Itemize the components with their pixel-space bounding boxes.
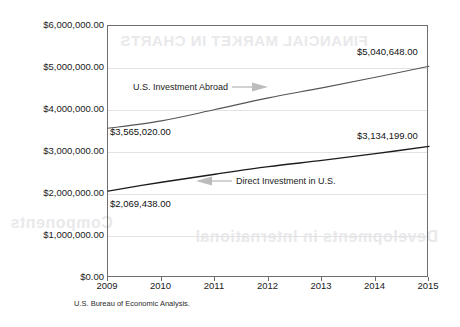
annotation-label-abroad: U.S. Investment Abroad (133, 82, 228, 92)
annotation-label-direct: Direct Investment in U.S. (236, 176, 336, 186)
investment-line-chart: FINANCIAL MARKET IN CHARTS Components De… (0, 0, 460, 327)
y-axis-tick-label: $2,000,000.00 (1, 188, 104, 198)
x-axis-tick-label: 2013 (298, 280, 344, 291)
x-axis-tick-label: 2010 (138, 280, 184, 291)
annotation-us-investment-abroad: U.S. Investment Abroad (133, 82, 268, 92)
x-axis-tick-label: 2015 (405, 280, 451, 291)
source-note: U.S. Bureau of Economic Analysis. (74, 299, 190, 308)
y-axis-tick-label: $6,000,000.00 (1, 20, 104, 30)
arrow-right-icon (232, 82, 268, 92)
y-axis-tick-label: $3,000,000.00 (1, 146, 104, 156)
line-us-investment-abroad (108, 66, 429, 128)
annotation-direct-investment-in-us: Direct Investment in U.S. (196, 176, 336, 186)
x-axis-tick-label: 2012 (245, 280, 291, 291)
x-axis-tick-label: 2011 (191, 280, 237, 291)
plot-area (107, 25, 428, 277)
y-axis-tick-label: $5,000,000.00 (1, 62, 104, 72)
x-axis-tick-label: 2014 (352, 280, 398, 291)
value-label-direct-start: $2,069,438.00 (110, 198, 171, 209)
value-label-abroad-start: $3,565,020.00 (110, 126, 171, 137)
y-axis-tick-label: $4,000,000.00 (1, 104, 104, 114)
y-axis-labels: $0.00$1,000,000.00$2,000,000.00$3,000,00… (0, 0, 104, 327)
value-label-direct-end: $3,134,199.00 (357, 130, 418, 141)
y-axis-tick-label: $1,000,000.00 (1, 230, 104, 240)
value-label-abroad-end: $5,040,648.00 (357, 46, 418, 57)
arrow-left-icon (196, 176, 232, 186)
series-lines (108, 26, 429, 278)
x-axis-tick-label: 2009 (84, 280, 130, 291)
